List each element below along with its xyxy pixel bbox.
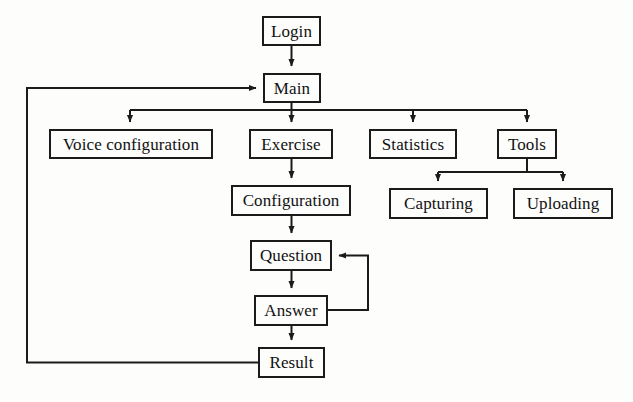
node-voice-configuration[interactable]: Voice configuration — [49, 129, 213, 159]
edge-answer-question-loop — [328, 256, 368, 311]
node-question[interactable]: Question — [250, 240, 332, 271]
node-login[interactable]: Login — [262, 16, 321, 46]
node-login-label: Login — [271, 22, 312, 39]
node-uploading[interactable]: Uploading — [513, 188, 613, 219]
node-capturing-label: Capturing — [404, 195, 473, 212]
node-question-label: Question — [260, 247, 322, 264]
node-exercise-label: Exercise — [261, 135, 320, 152]
node-voice-configuration-label: Voice configuration — [63, 135, 199, 152]
node-main-label: Main — [274, 79, 310, 96]
node-result[interactable]: Result — [258, 347, 325, 378]
node-main[interactable]: Main — [263, 73, 321, 103]
node-tools-label: Tools — [508, 135, 546, 152]
node-uploading-label: Uploading — [527, 195, 600, 212]
node-statistics-label: Statistics — [382, 135, 444, 152]
node-statistics[interactable]: Statistics — [369, 129, 457, 159]
node-answer-label: Answer — [264, 302, 317, 319]
node-capturing[interactable]: Capturing — [389, 188, 488, 219]
node-tools[interactable]: Tools — [497, 129, 557, 159]
node-configuration-label: Configuration — [243, 192, 340, 209]
node-result-label: Result — [269, 354, 313, 371]
node-configuration[interactable]: Configuration — [231, 185, 351, 216]
node-answer[interactable]: Answer — [254, 295, 328, 326]
node-exercise[interactable]: Exercise — [249, 129, 333, 159]
flowchart-canvas: Login Main Voice configuration Exercise … — [0, 0, 633, 402]
